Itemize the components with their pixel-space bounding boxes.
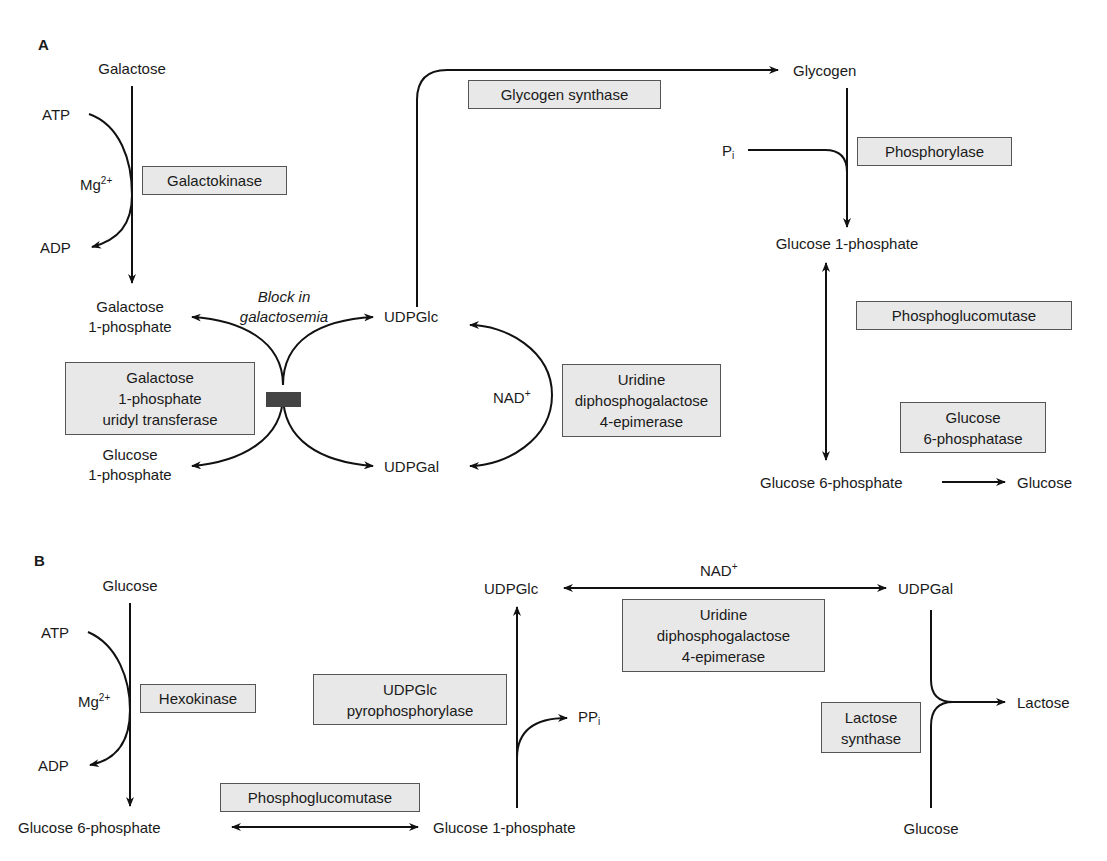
panel-b-label: B [34,550,45,571]
ppi-label: PPi [578,706,600,732]
udpgal-label-b: UDPGal [898,578,953,599]
glucose-1-phosphate-label-b: Glucose 1-phosphate [433,817,576,838]
pi-branch [748,150,847,172]
atp-label-b: ATP [41,622,69,643]
panel-a-label: A [38,34,49,55]
galactokinase-box: Galactokinase [142,166,287,195]
glucose-6-phosphate-label-b: Glucose 6-phosphate [18,817,161,838]
udpgal-branch [931,610,953,702]
mg-label: Mg2+ [80,170,112,195]
ppi-branch [517,718,567,758]
galactosemia-block-marker [266,392,301,407]
nad-label-b: NAD+ [700,556,738,581]
galactose-1-phosphate-label: Galactose1-phosphate [88,297,171,337]
lactose-label: Lactose [1017,692,1070,713]
epimerase-box: Uridinediphosphogalactose4-epimerase [562,364,721,437]
galactose-label: Galactose [98,58,166,79]
pyrophosphorylase-box: UDPGlcpyrophosphorylase [313,674,507,725]
epimerase-box-b: Uridinediphosphogalactose4-epimerase [622,599,825,672]
phosphoglucomutase-box-a: Phosphoglucomutase [856,301,1072,330]
phosphorylase-box: Phosphorylase [857,137,1012,166]
glycogen-synthase-box: Glycogen synthase [468,80,661,109]
glucose-1-phosphate-label: Glucose1-phosphate [88,445,171,485]
pi-label: Pi [722,140,734,166]
glucose-label-a: Glucose [1017,472,1072,493]
glucose-branch [931,702,953,808]
atp-label: ATP [42,104,70,125]
adp-label-b: ADP [38,755,69,776]
hexokinase-box: Hexokinase [140,684,256,713]
block-in-galactosemia-label: Block ingalactosemia [240,287,328,327]
glucose-label-b: Glucose [102,575,157,596]
lactose-synthase-box: Lactosesynthase [821,702,921,753]
transferase-box: Galactose1-phosphateuridyl transferase [65,362,255,435]
transferase-right-top [283,317,373,385]
glucose-bottom-label: Glucose [903,818,958,839]
nad-label: NAD+ [493,383,531,408]
glucose-6-phosphatase-box: Glucose6-phosphatase [900,402,1046,453]
glycogen-label: Glycogen [793,60,856,81]
glucose-6-phosphate-label-a: Glucose 6-phosphate [760,472,903,493]
mg-label-b: Mg2+ [78,687,110,712]
glucose-1-phosphate-label-a: Glucose 1-phosphate [776,233,919,254]
udpglc-label-b: UDPGlc [484,578,538,599]
adp-label: ADP [40,237,71,258]
udpgal-label: UDPGal [384,456,439,477]
udpglc-label: UDPGlc [384,306,438,327]
phosphoglucomutase-box-b: Phosphoglucomutase [220,783,420,812]
